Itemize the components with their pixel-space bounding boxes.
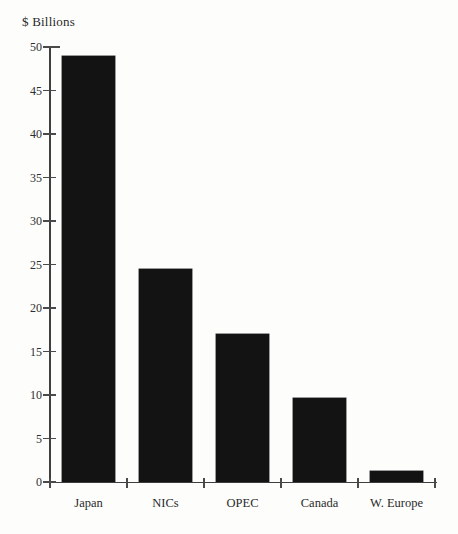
- bar-w-europe: [370, 471, 423, 482]
- y-tick-label: 35: [8, 172, 42, 184]
- y-tick-label: 0: [8, 476, 42, 488]
- y-tick-label: 5: [8, 433, 42, 445]
- x-category-label: Japan: [50, 497, 127, 510]
- y-tick-label: 40: [8, 128, 42, 140]
- y-axis-tick: [43, 307, 56, 309]
- plot-area: 05101520253035404550JapanNICsOPECCanadaW…: [0, 0, 458, 534]
- y-tick-label: 30: [8, 215, 42, 227]
- y-axis-tick: [43, 351, 56, 353]
- y-axis-tick: [43, 220, 56, 222]
- x-category-label: OPEC: [204, 497, 281, 510]
- y-axis-tick: [43, 394, 56, 396]
- x-category-label: W. Europe: [358, 497, 435, 510]
- x-axis-tick: [280, 478, 282, 488]
- y-axis-tick: [43, 438, 56, 440]
- x-axis-tick: [49, 478, 51, 488]
- y-tick-label: 45: [8, 85, 42, 97]
- x-category-label: Canada: [281, 497, 358, 510]
- y-tick-label: 15: [8, 346, 42, 358]
- bar-nics: [139, 269, 192, 482]
- y-axis-tick: [43, 90, 56, 92]
- x-axis-tick: [434, 478, 436, 488]
- x-axis-tick: [126, 478, 128, 488]
- y-axis-tick: [43, 46, 60, 48]
- bar-japan: [62, 56, 115, 482]
- y-tick-label: 50: [8, 41, 42, 53]
- x-category-label: NICs: [127, 497, 204, 510]
- bar-opec: [216, 334, 269, 482]
- y-axis-tick: [43, 133, 56, 135]
- x-axis-tick: [203, 478, 205, 488]
- bar-canada: [293, 398, 346, 482]
- x-axis-tick: [357, 478, 359, 488]
- y-axis-tick: [43, 264, 56, 266]
- y-tick-label: 25: [8, 259, 42, 271]
- y-tick-label: 20: [8, 302, 42, 314]
- y-tick-label: 10: [8, 389, 42, 401]
- y-axis-tick: [43, 177, 56, 179]
- bar-chart-figure: $ Billions 05101520253035404550JapanNICs…: [0, 0, 458, 534]
